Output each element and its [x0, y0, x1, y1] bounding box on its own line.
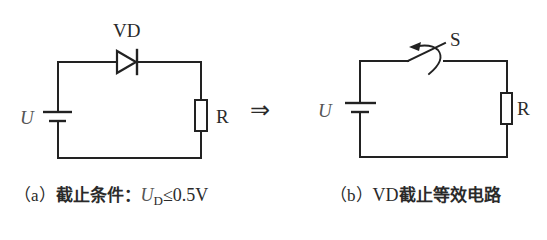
- voltage-symbol: U: [141, 185, 154, 205]
- diode-label: VD: [113, 21, 140, 40]
- resistor-icon: [501, 93, 512, 124]
- left-circuit: [43, 50, 207, 158]
- caption-text: 截止等效电路: [399, 185, 501, 205]
- caption-text: 截止条件：: [56, 185, 141, 205]
- double-arrow-icon: ⇒: [250, 98, 270, 122]
- resistor-label: R: [216, 107, 229, 126]
- resistor-icon: [195, 100, 207, 131]
- caption-device: VD: [373, 185, 399, 205]
- caption-prefix: （a）: [14, 186, 56, 205]
- battery-icon: [345, 103, 376, 112]
- resistor-label: R: [517, 99, 530, 118]
- right-circuit: [345, 42, 512, 157]
- caption-prefix: （b）: [330, 186, 373, 205]
- caption-b: （b）VD截止等效电路: [330, 186, 501, 204]
- source-label: U: [318, 101, 332, 120]
- caption-a: （a）截止条件：UD≤0.5V: [14, 186, 208, 204]
- cutoff-condition: ≤0.5V: [163, 185, 208, 205]
- switch-label: S: [450, 30, 461, 49]
- voltage-subscript: D: [154, 193, 163, 208]
- diode-icon: [117, 50, 137, 74]
- source-label: U: [20, 108, 34, 127]
- battery-icon: [43, 112, 72, 121]
